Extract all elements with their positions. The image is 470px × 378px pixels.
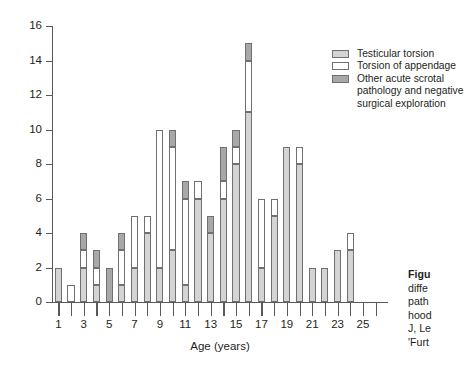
caption-line-5: 'Furt bbox=[408, 336, 470, 350]
bar-age-12[interactable] bbox=[194, 181, 201, 302]
bar-segment-age-17-series-1 bbox=[258, 199, 265, 268]
bar-segment-age-22-series-0 bbox=[321, 268, 328, 303]
y-tick-label-10: 10 bbox=[29, 124, 42, 136]
bar-age-8[interactable] bbox=[144, 216, 151, 302]
bar-age-9[interactable] bbox=[156, 130, 163, 303]
bar-segment-age-20-series-0 bbox=[296, 164, 303, 302]
bar-age-24[interactable] bbox=[347, 233, 354, 302]
bar-segment-age-4-series-0 bbox=[93, 285, 100, 302]
bar-segment-age-16-series-1 bbox=[245, 61, 252, 113]
x-tick-label-5: 5 bbox=[106, 319, 112, 331]
bar-segment-age-12-series-1 bbox=[194, 181, 201, 198]
x-tick-label-9: 9 bbox=[157, 319, 163, 331]
bar-age-6[interactable] bbox=[118, 233, 125, 302]
bar-age-19[interactable] bbox=[283, 147, 290, 302]
bar-age-13[interactable] bbox=[207, 216, 214, 302]
legend-label-1: Torsion of appendage bbox=[357, 60, 456, 71]
y-tick-label-16: 16 bbox=[29, 20, 42, 32]
x-tick-label-1: 1 bbox=[55, 319, 61, 331]
bar-age-18[interactable] bbox=[271, 199, 278, 303]
x-tick-label-19: 19 bbox=[280, 319, 293, 331]
x-tick-5 bbox=[109, 303, 110, 316]
bar-segment-age-14-series-2 bbox=[220, 147, 227, 182]
bar-segment-age-11-series-0 bbox=[182, 285, 189, 302]
bar-segment-age-9-series-1 bbox=[156, 130, 163, 268]
bar-age-11[interactable] bbox=[182, 181, 189, 302]
bar-age-14[interactable] bbox=[220, 147, 227, 302]
legend-label-continuation-0: pathology and negative bbox=[332, 85, 470, 97]
bar-segment-age-19-series-0 bbox=[283, 147, 290, 302]
x-tick-25 bbox=[363, 303, 364, 316]
x-tick-label-3: 3 bbox=[81, 319, 87, 331]
y-tick-label-14: 14 bbox=[29, 55, 42, 67]
bar-age-5[interactable] bbox=[106, 268, 113, 303]
y-tick-label-12: 12 bbox=[29, 89, 42, 101]
x-tick-26 bbox=[376, 303, 377, 316]
x-tick-16 bbox=[249, 303, 250, 316]
bar-age-4[interactable] bbox=[93, 250, 100, 302]
y-tick-8 bbox=[46, 164, 52, 165]
bar-age-10[interactable] bbox=[169, 130, 176, 303]
bar-age-23[interactable] bbox=[334, 250, 341, 302]
y-tick-0 bbox=[46, 302, 52, 303]
bar-age-7[interactable] bbox=[131, 216, 138, 302]
legend-item-1[interactable]: Torsion of appendage bbox=[332, 60, 470, 72]
bar-segment-age-18-series-0 bbox=[271, 216, 278, 302]
bar-segment-age-7-series-0 bbox=[131, 268, 138, 303]
x-tick-label-13: 13 bbox=[204, 319, 217, 331]
y-tick-16 bbox=[46, 26, 52, 27]
x-tick-label-23: 23 bbox=[331, 319, 344, 331]
y-tick-12 bbox=[46, 95, 52, 96]
legend-item-2[interactable]: Other acute scrotal bbox=[332, 73, 470, 85]
legend-item-0[interactable]: Testicular torsion bbox=[332, 48, 470, 60]
bar-age-15[interactable] bbox=[232, 130, 239, 303]
caption-line-3: hood bbox=[408, 309, 470, 323]
bar-age-3[interactable] bbox=[80, 233, 87, 302]
bar-age-20[interactable] bbox=[296, 147, 303, 302]
x-tick-15 bbox=[236, 303, 237, 316]
x-tick-19 bbox=[287, 303, 288, 316]
bar-segment-age-14-series-1 bbox=[220, 181, 227, 198]
bar-segment-age-23-series-0 bbox=[334, 250, 341, 302]
y-tick-14 bbox=[46, 61, 52, 62]
x-tick-11 bbox=[185, 303, 186, 316]
bar-age-21[interactable] bbox=[309, 268, 316, 303]
bar-segment-age-6-series-0 bbox=[118, 285, 125, 302]
bar-segment-age-10-series-1 bbox=[169, 147, 176, 251]
bar-segment-age-3-series-2 bbox=[80, 233, 87, 250]
bar-age-2[interactable] bbox=[67, 285, 74, 302]
x-tick-label-11: 11 bbox=[179, 319, 191, 331]
bar-segment-age-7-series-1 bbox=[131, 216, 138, 268]
bar-segment-age-13-series-0 bbox=[207, 233, 214, 302]
bar-segment-age-15-series-0 bbox=[232, 164, 239, 302]
bar-segment-age-9-series-0 bbox=[156, 268, 163, 303]
x-tick-label-7: 7 bbox=[131, 319, 137, 331]
x-tick-23 bbox=[338, 303, 339, 316]
bar-age-16[interactable] bbox=[245, 43, 252, 302]
x-tick-8 bbox=[147, 303, 148, 316]
bar-segment-age-3-series-1 bbox=[80, 250, 87, 267]
x-tick-18 bbox=[274, 303, 275, 316]
x-tick-label-17: 17 bbox=[255, 319, 268, 331]
y-tick-2 bbox=[46, 268, 52, 269]
legend-label-continuation-1: surgical exploration bbox=[332, 98, 470, 110]
bar-segment-age-11-series-2 bbox=[182, 181, 189, 198]
legend-swatch-1 bbox=[332, 62, 349, 70]
x-axis-title: Age (years) bbox=[52, 340, 388, 352]
y-tick-4 bbox=[46, 233, 52, 234]
x-tick-label-15: 15 bbox=[230, 319, 243, 331]
bar-segment-age-3-series-0 bbox=[80, 268, 87, 303]
bar-age-22[interactable] bbox=[321, 268, 328, 303]
figure-container: 0246810121416 135791113151719212325 Age … bbox=[0, 0, 470, 378]
x-tick-17 bbox=[261, 303, 262, 316]
x-tick-12 bbox=[198, 303, 199, 316]
bar-segment-age-10-series-0 bbox=[169, 250, 176, 302]
x-tick-10 bbox=[173, 303, 174, 316]
x-tick-9 bbox=[160, 303, 161, 316]
bar-age-1[interactable] bbox=[55, 268, 62, 303]
chart-legend: Testicular torsionTorsion of appendageOt… bbox=[332, 48, 470, 110]
bar-segment-age-16-series-2 bbox=[245, 43, 252, 60]
x-tick-22 bbox=[325, 303, 326, 316]
bar-age-17[interactable] bbox=[258, 199, 265, 303]
bar-segment-age-4-series-2 bbox=[93, 250, 100, 267]
